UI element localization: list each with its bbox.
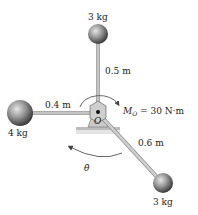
arm-lower-right-length: 0.6 m xyxy=(138,139,164,148)
arm-left-length: 0.4 m xyxy=(45,101,71,110)
mass-lower-right-label: 3 kg xyxy=(153,198,173,207)
mass-top-ball xyxy=(88,24,108,44)
moment-subscript: O xyxy=(132,110,137,117)
pivot-label: O xyxy=(94,117,101,126)
mass-top-label: 3 kg xyxy=(88,13,108,22)
moment-label: MO = 30 N·m xyxy=(123,107,184,116)
moment-value: = 30 N·m xyxy=(140,106,184,116)
moment-symbol: M xyxy=(123,106,132,116)
angular-velocity-arrow-icon xyxy=(70,147,122,157)
mass-left-ball xyxy=(7,100,33,126)
mass-lower-right-ball xyxy=(153,173,173,193)
arm-top-length: 0.5 m xyxy=(105,67,131,76)
angular-velocity-label: θ̇ xyxy=(84,164,89,173)
mass-left-label: 4 kg xyxy=(8,129,28,138)
diagram: 3 kg 0.5 m 0.4 m 4 kg 0.6 m 3 kg MO = 30… xyxy=(0,0,198,215)
